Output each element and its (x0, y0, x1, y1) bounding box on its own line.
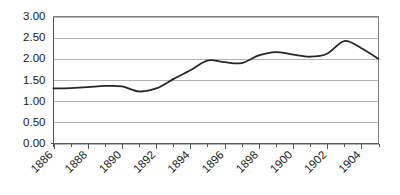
x-tick-label: 1902 (302, 148, 329, 175)
y-tick-label: 2.50 (23, 31, 45, 43)
x-tick-label: 1898 (234, 148, 261, 175)
x-tick-label: 1896 (199, 148, 226, 175)
y-axis-tick-labels: 0.000.501.001.502.002.503.00 (23, 10, 45, 149)
x-tick-label: 1890 (97, 148, 124, 175)
series-line-1 (54, 41, 379, 92)
x-tick-label: 1900 (268, 148, 295, 175)
x-tick-label: 1886 (28, 148, 55, 175)
y-tick-label: 2.00 (23, 52, 45, 64)
y-tick-label: 3.00 (23, 10, 45, 22)
x-tick-label: 1892 (131, 148, 158, 175)
x-tick-label: 1894 (165, 148, 192, 175)
y-tick-label: 0.00 (23, 137, 45, 149)
chart-canvas: 0.000.501.001.502.002.503.00 18861888189… (0, 0, 400, 195)
gridlines (54, 18, 379, 145)
y-tick-label: 1.00 (23, 95, 45, 107)
x-tick-label: 1888 (63, 148, 90, 175)
y-tick-label: 1.50 (23, 74, 45, 86)
x-axis-tick-labels: 1886188818901892189418961898190019021904 (28, 148, 363, 175)
y-tick-label: 0.50 (23, 116, 45, 128)
x-tick-label: 1904 (336, 148, 363, 175)
line-chart: 0.000.501.001.502.002.503.00 18861888189… (0, 0, 400, 195)
